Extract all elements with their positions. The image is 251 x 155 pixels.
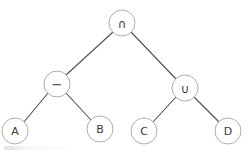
union-symbol: ∪ [181,82,190,96]
diagram-canvas: ∩−∪ABCD [0,0,251,155]
tree-node-leafA[interactable]: A [2,118,28,144]
tree-node-leafB[interactable]: B [87,116,113,142]
tree-node-leafD[interactable]: D [215,118,241,144]
tree-node-union[interactable]: ∪ [172,75,198,101]
tree-node-root[interactable]: ∩ [109,10,135,36]
tree-edge-root-to-minus [66,32,113,75]
tree-node-leafC[interactable]: C [131,118,157,144]
intersection-symbol: ∩ [118,17,127,31]
tree-node-minus[interactable]: − [44,71,70,97]
tree-edge-minus-to-leafA [24,93,48,122]
tree-edge-root-to-union [131,32,176,79]
minus-symbol: − [52,77,63,92]
letter-b: B [96,123,104,136]
letter-d: D [224,125,232,138]
letter-c: C [140,125,148,138]
tree-edge-union-to-leafC [153,97,176,122]
letter-a: A [11,125,19,138]
tree-edge-minus-to-leafB [66,93,91,120]
tree-edge-union-to-leafD [194,97,219,122]
node-group: ∩−∪ABCD [2,10,241,144]
binary-expression-tree: ∩−∪ABCD [0,0,251,155]
